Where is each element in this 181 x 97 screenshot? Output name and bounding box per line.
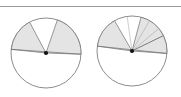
right-circle — [97, 16, 167, 86]
figure-page — [0, 0, 181, 97]
two-circles-figure — [0, 0, 181, 97]
left-circle — [11, 18, 81, 88]
right-circle-center-dot — [130, 49, 134, 53]
left-circle-center-dot — [44, 51, 48, 55]
figure-render-group — [11, 16, 167, 88]
